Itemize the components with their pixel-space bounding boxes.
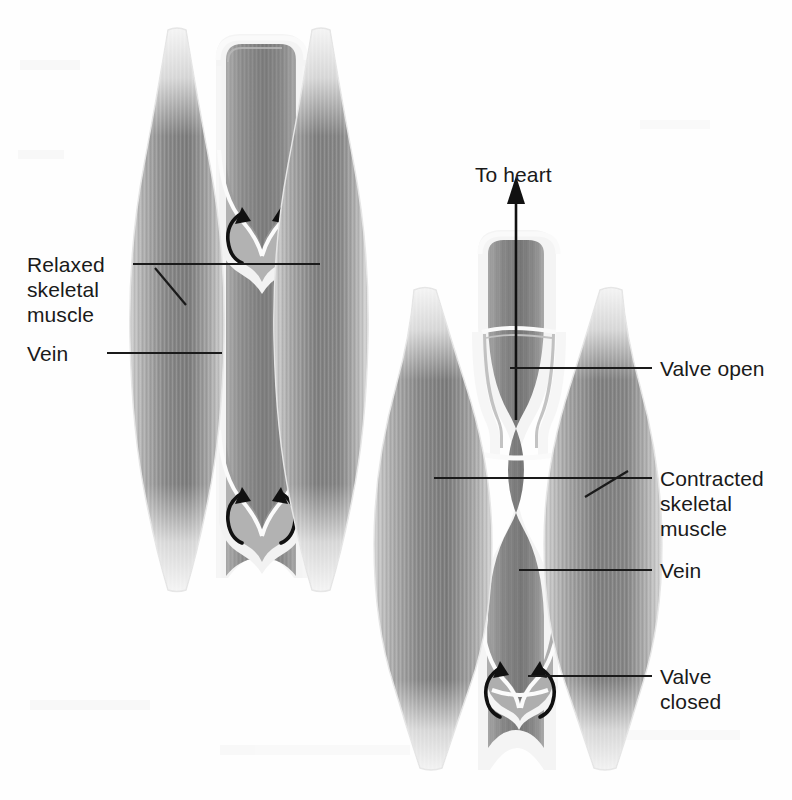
relaxed-panel (107, 20, 385, 600)
diagram-canvas: To heart Relaxed skeletal muscle Vein Va… (0, 0, 792, 800)
label-valve-closed: Valve closed (660, 664, 721, 714)
contracted-panel (360, 176, 680, 780)
label-vein-right: Vein (660, 558, 701, 583)
label-valve-open: Valve open (660, 356, 765, 381)
label-to-heart: To heart (475, 162, 552, 187)
label-contracted-skeletal-muscle: Contracted skeletal muscle (660, 466, 764, 541)
label-vein-left: Vein (27, 341, 68, 366)
label-relaxed-skeletal-muscle: Relaxed skeletal muscle (27, 252, 105, 327)
